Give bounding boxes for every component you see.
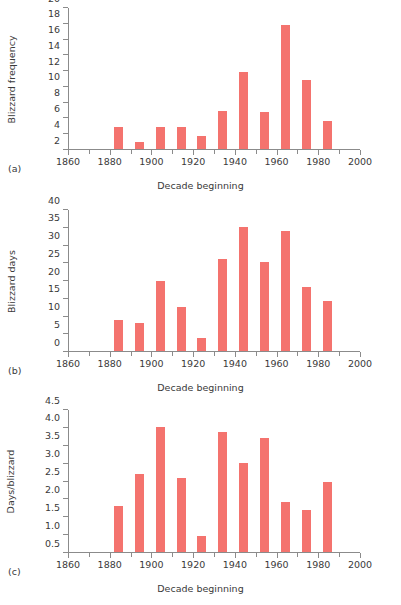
y-tick-a [63, 102, 68, 103]
x-tick-label-a: 1920 [181, 157, 205, 167]
y-tick-b [63, 262, 68, 263]
y-tick-label-b: 30 [48, 231, 60, 241]
x-tick-major-b [151, 352, 152, 357]
bar [197, 536, 206, 552]
x-tick-label-a: 1960 [264, 157, 288, 167]
x-tick-major-a [110, 150, 111, 155]
y-tick-label-c: 4.0 [45, 414, 60, 424]
y-tick-b [63, 333, 68, 334]
bar [281, 502, 290, 552]
panel-letter-b: (b) [8, 365, 21, 376]
bar [156, 427, 165, 552]
bar [177, 478, 186, 552]
x-tick-label-b: 1980 [306, 359, 330, 369]
bar [260, 262, 269, 351]
y-tick-b [63, 227, 68, 228]
y-tick-label-a: 12 [48, 57, 60, 67]
x-tick-major-c [360, 553, 361, 558]
panel-letter-c: (c) [8, 566, 21, 577]
x-tick-label-b: 1960 [264, 359, 288, 369]
plot-area-c: 0.51.01.52.02.53.03.54.04.51860188019001… [68, 410, 360, 553]
x-tick-major-c [110, 553, 111, 558]
x-tick-minor-a [89, 150, 90, 154]
y-tick-c [63, 445, 68, 446]
x-tick-major-b [68, 352, 69, 357]
bar [135, 142, 144, 149]
x-tick-label-a: 1860 [56, 157, 80, 167]
x-tick-label-b: 1920 [181, 359, 205, 369]
y-tick-label-b: 25 [48, 249, 60, 259]
x-tick-major-a [235, 150, 236, 155]
y-tick-b [63, 280, 68, 281]
y-tick-c [63, 409, 68, 410]
y-axis-line-c [68, 410, 69, 553]
y-tick-a [63, 7, 68, 8]
y-axis-line-a [68, 8, 69, 150]
x-tick-minor-a [131, 150, 132, 154]
y-tick-label-a: 16 [48, 25, 60, 35]
y-tick-label-a: 14 [48, 41, 60, 51]
chart-panel-c: Days/blizzard 0.51.01.52.02.53.03.54.04.… [0, 398, 401, 605]
x-tick-minor-a [297, 150, 298, 154]
x-tick-major-c [277, 553, 278, 558]
y-axis-label-b: Blizzard days [4, 210, 18, 352]
x-tick-minor-c [214, 553, 215, 557]
bar [323, 301, 332, 351]
bar [177, 127, 186, 149]
x-axis-label-a: Decade beginning [0, 180, 401, 191]
x-tick-label-b: 1860 [56, 359, 80, 369]
bar [114, 127, 123, 149]
bar [281, 231, 290, 351]
y-tick-a [63, 70, 68, 71]
y-tick-label-b: 0 [54, 338, 60, 348]
x-tick-minor-a [214, 150, 215, 154]
y-tick-label-c: 2.5 [45, 467, 60, 477]
bar [302, 510, 311, 552]
x-tick-minor-c [256, 553, 257, 557]
x-tick-minor-c [172, 553, 173, 557]
y-tick-label-b: 20 [48, 267, 60, 277]
bar [135, 474, 144, 552]
bar [218, 111, 227, 149]
x-tick-minor-c [131, 553, 132, 557]
x-tick-minor-b [297, 352, 298, 356]
x-tick-major-a [193, 150, 194, 155]
y-tick-b [63, 298, 68, 299]
x-tick-label-c: 1920 [181, 560, 205, 570]
bar [239, 227, 248, 351]
x-tick-label-c: 1980 [306, 560, 330, 570]
x-tick-label-c: 2000 [348, 560, 372, 570]
bar [239, 72, 248, 149]
y-tick-label-a: 4 [54, 120, 60, 130]
bar [302, 80, 311, 149]
x-tick-minor-b [339, 352, 340, 356]
x-tick-major-a [151, 150, 152, 155]
x-tick-label-a: 1940 [223, 157, 247, 167]
x-tick-label-a: 2000 [348, 157, 372, 167]
x-tick-major-c [68, 553, 69, 558]
x-tick-minor-a [339, 150, 340, 154]
x-tick-major-b [360, 352, 361, 357]
y-tick-a [63, 117, 68, 118]
y-tick-label-c: 0.5 [45, 539, 60, 549]
bar [156, 127, 165, 149]
x-tick-major-b [277, 352, 278, 357]
y-tick-label-b: 10 [48, 302, 60, 312]
bar [197, 338, 206, 351]
x-tick-major-b [235, 352, 236, 357]
y-axis-line-b [68, 210, 69, 352]
x-tick-label-a: 1980 [306, 157, 330, 167]
bar [260, 112, 269, 149]
x-tick-label-b: 1880 [98, 359, 122, 369]
x-tick-label-a: 1880 [98, 157, 122, 167]
y-tick-a [63, 54, 68, 55]
y-tick-a [63, 133, 68, 134]
x-tick-major-a [318, 150, 319, 155]
y-tick-c [63, 534, 68, 535]
chart-panel-b: Blizzard days 05101520253035401860188019… [0, 196, 401, 398]
bar [218, 432, 227, 552]
y-axis-label-a: Blizzard frequency [4, 8, 18, 150]
y-tick-b [63, 209, 68, 210]
x-tick-major-b [318, 352, 319, 357]
y-tick-label-a: 8 [54, 88, 60, 98]
